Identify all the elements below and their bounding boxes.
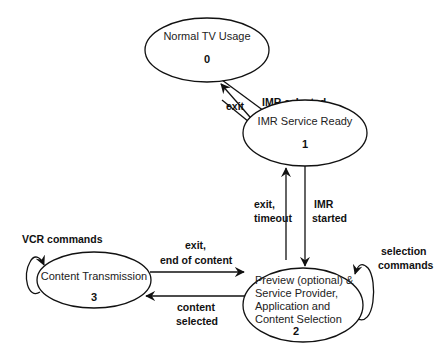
label-exit-to-normal: exit: [226, 100, 245, 112]
state-name-2-line-2: Service Provider,: [255, 287, 338, 299]
state-name-2-line-1: Preview (optional) &: [255, 274, 354, 286]
state-number-2: 2: [293, 325, 299, 337]
transition-imr-started: IMR started: [305, 166, 347, 266]
label-commands: commands: [378, 259, 434, 271]
self-loop-selection-commands: selection commands: [355, 245, 434, 320]
state-ellipse-0: [145, 18, 269, 82]
transition-content-selected: content selected: [146, 296, 245, 327]
label-exit-comma: exit,: [185, 239, 206, 251]
label-selection: selection: [381, 245, 427, 257]
label-content: content: [177, 301, 215, 313]
state-number-3: 3: [91, 291, 97, 303]
label-end-of-content: end of content: [160, 254, 233, 266]
state-ellipse-1: [243, 100, 367, 166]
state-number-0: 0: [204, 53, 210, 65]
label-imr: IMR: [314, 198, 334, 210]
state-name-2-line-3: Application and: [255, 300, 330, 312]
transition-exit-timeout: exit, timeout: [254, 168, 292, 260]
state-normal-tv-usage: Normal TV Usage 0: [145, 18, 269, 82]
state-name-3: Content Transmission: [41, 270, 147, 282]
state-number-1: 1: [302, 138, 308, 150]
transition-end-of-content: exit, end of content: [150, 239, 244, 272]
label-exit: exit,: [254, 198, 275, 210]
state-name-0: Normal TV Usage: [163, 30, 250, 42]
state-name-2-line-4: Content Selection: [255, 313, 342, 325]
state-diagram: IMR selected exit exit, timeout IMR star…: [0, 0, 443, 346]
state-content-transmission: Content Transmission 3: [37, 252, 151, 308]
label-timeout: timeout: [254, 212, 292, 224]
label-started: started: [312, 212, 347, 224]
state-imr-service-ready: IMR Service Ready 1: [243, 100, 367, 166]
state-name-1: IMR Service Ready: [258, 115, 353, 127]
state-preview-selection: Preview (optional) & Service Provider, A…: [243, 268, 363, 342]
label-vcr-commands: VCR commands: [22, 233, 103, 245]
label-selected: selected: [176, 315, 218, 327]
